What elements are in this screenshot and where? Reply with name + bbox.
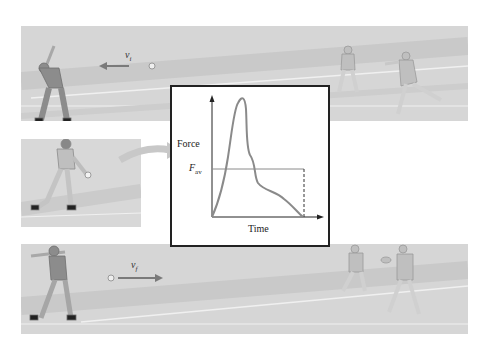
force-curve — [212, 98, 303, 217]
force-time-graph: Force Fav Time — [170, 85, 330, 247]
panel-after-collision: vf — [21, 244, 468, 334]
y-axis-label: Force — [177, 138, 200, 149]
field-scene-after — [21, 244, 468, 334]
velocity-final-label: vf — [131, 259, 137, 273]
average-force-label: Fav — [189, 162, 202, 176]
baseball-icon — [108, 275, 114, 281]
baseball-icon — [149, 63, 155, 69]
x-axis-label: Time — [248, 223, 269, 234]
velocity-initial-label: vi — [125, 49, 131, 63]
